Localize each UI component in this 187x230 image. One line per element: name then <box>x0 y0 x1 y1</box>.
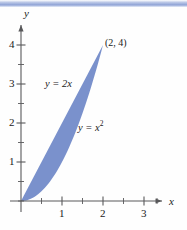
y-tick-label-1: 1 <box>9 156 15 167</box>
y-tick-label-2: 2 <box>9 117 15 128</box>
plot-area <box>0 0 187 230</box>
parabola-label-exponent: 2 <box>100 119 104 128</box>
y-tick-label-3: 3 <box>9 78 15 89</box>
x-axis-arrowhead <box>156 198 163 203</box>
graph-figure: y x 4 3 2 1 1 2 3 y = 2x y = x2 (2, 4) <box>0 0 187 230</box>
x-tick-label-2: 2 <box>100 208 106 219</box>
point-label-2-4: (2, 4) <box>105 38 127 48</box>
x-tick-label-3: 3 <box>141 208 147 219</box>
y-tick-label-4: 4 <box>9 39 15 50</box>
y-axis-label: y <box>24 8 29 19</box>
parabola-curve-label: y = x2 <box>78 120 103 133</box>
parabola-label-base: y = x <box>78 122 100 133</box>
x-tick-label-1: 1 <box>59 208 65 219</box>
y-axis-arrowhead <box>18 25 23 32</box>
line-curve-label: y = 2x <box>45 79 72 90</box>
x-axis-label: x <box>169 196 174 207</box>
